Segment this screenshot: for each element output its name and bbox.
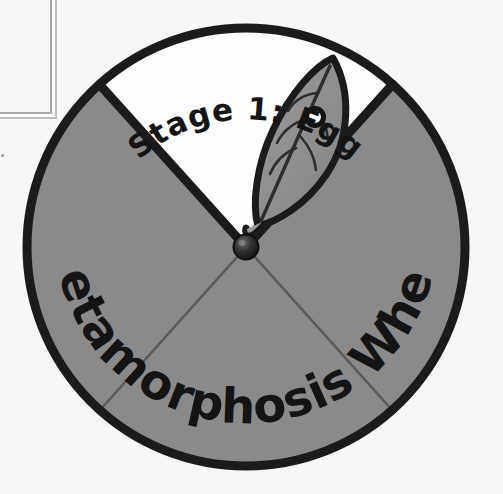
wheel-hub[interactable]: [234, 235, 259, 260]
screenshot-canvas: Stage 1: Egg Metamorphosis Wheel: [0, 0, 503, 494]
metamorphosis-wheel[interactable]: Stage 1: Egg Metamorphosis Wheel: [0, 0, 503, 494]
hub-highlight: [239, 240, 245, 246]
hub-knob[interactable]: [234, 235, 259, 260]
